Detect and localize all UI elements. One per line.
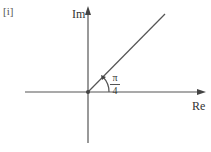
angle-arc	[103, 77, 109, 92]
origin-point	[86, 90, 90, 94]
angle-denominator: 4	[110, 85, 120, 96]
ray-pi-over-4	[88, 14, 165, 92]
re-arrow-icon	[197, 89, 206, 95]
angle-numerator: π	[110, 73, 120, 85]
im-arrow-icon	[85, 6, 91, 15]
argand-diagram	[0, 0, 211, 152]
angle-fraction: π 4	[110, 73, 120, 96]
